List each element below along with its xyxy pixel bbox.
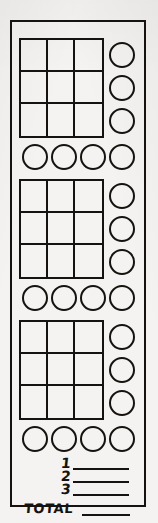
circle-bubble[interactable]	[51, 285, 77, 311]
circle-bubble[interactable]	[109, 357, 135, 383]
grid-cell[interactable]	[21, 104, 48, 136]
tally-grid-2	[19, 179, 104, 279]
circle-bubble[interactable]	[51, 144, 77, 170]
circle-bubble[interactable]	[109, 183, 135, 209]
score-row-2: 2	[61, 471, 133, 485]
bottom-circle-row-1	[20, 144, 137, 174]
score-card-sheet: 1 2 3 TOTAL	[0, 0, 158, 523]
grid-cell[interactable]	[21, 213, 48, 245]
grid-cell[interactable]	[75, 40, 102, 72]
grid-cell[interactable]	[75, 104, 102, 136]
circle-bubble[interactable]	[109, 249, 135, 275]
grid-cell[interactable]	[75, 386, 102, 418]
circle-bubble[interactable]	[51, 426, 77, 452]
score-row-1: 1	[61, 458, 133, 472]
total-label: TOTAL	[23, 502, 73, 516]
score-row-3: 3	[61, 484, 133, 498]
grid-cell[interactable]	[48, 354, 75, 386]
circle-bubble[interactable]	[109, 216, 135, 242]
grid-cell[interactable]	[21, 40, 48, 72]
grid-cell[interactable]	[48, 213, 75, 245]
circle-bubble[interactable]	[80, 285, 106, 311]
circle-bubble[interactable]	[109, 285, 135, 311]
side-circle-column-3	[109, 322, 137, 422]
grid-cell[interactable]	[21, 322, 48, 354]
grid-cell[interactable]	[21, 181, 48, 213]
grid-cell[interactable]	[48, 104, 75, 136]
grid-cell[interactable]	[75, 213, 102, 245]
grid-cell[interactable]	[21, 72, 48, 104]
circle-bubble[interactable]	[109, 108, 135, 134]
grid-cell[interactable]	[48, 245, 75, 277]
grid-cell[interactable]	[75, 245, 102, 277]
grid-cell[interactable]	[48, 386, 75, 418]
total-row: TOTAL	[24, 502, 136, 520]
circle-bubble[interactable]	[109, 75, 135, 101]
score-row-label: 3	[60, 482, 71, 496]
side-circle-column-2	[109, 181, 137, 281]
score-write-line[interactable]	[73, 468, 129, 470]
total-write-line[interactable]	[82, 514, 130, 516]
circle-bubble[interactable]	[109, 426, 135, 452]
bottom-circle-row-3	[20, 426, 137, 456]
card-outer-border: 1 2 3 TOTAL	[10, 20, 146, 507]
grid-cell[interactable]	[21, 354, 48, 386]
circle-bubble[interactable]	[22, 144, 48, 170]
grid-cell[interactable]	[75, 72, 102, 104]
circle-bubble[interactable]	[80, 144, 106, 170]
circle-bubble[interactable]	[109, 324, 135, 350]
grid-cell[interactable]	[21, 386, 48, 418]
grid-cell[interactable]	[48, 181, 75, 213]
grid-cell[interactable]	[48, 40, 75, 72]
score-blocks-container	[12, 22, 144, 505]
tally-grid-1	[19, 38, 104, 138]
grid-cell[interactable]	[48, 72, 75, 104]
grid-cell[interactable]	[75, 322, 102, 354]
grid-cell[interactable]	[21, 245, 48, 277]
side-circle-column-1	[109, 40, 137, 140]
score-write-line[interactable]	[73, 494, 129, 496]
circle-bubble[interactable]	[109, 42, 135, 68]
circle-bubble[interactable]	[80, 426, 106, 452]
grid-cell[interactable]	[48, 322, 75, 354]
score-block-1	[19, 38, 137, 178]
bottom-circle-row-2	[20, 285, 137, 315]
score-write-line[interactable]	[73, 481, 129, 483]
tally-grid-3	[19, 320, 104, 420]
grid-cell[interactable]	[75, 181, 102, 213]
circle-bubble[interactable]	[22, 285, 48, 311]
score-block-2	[19, 179, 137, 319]
circle-bubble[interactable]	[109, 390, 135, 416]
score-tally-section: 1 2 3 TOTAL	[12, 458, 144, 508]
grid-cell[interactable]	[75, 354, 102, 386]
circle-bubble[interactable]	[109, 144, 135, 170]
circle-bubble[interactable]	[22, 426, 48, 452]
score-block-3	[19, 320, 137, 460]
